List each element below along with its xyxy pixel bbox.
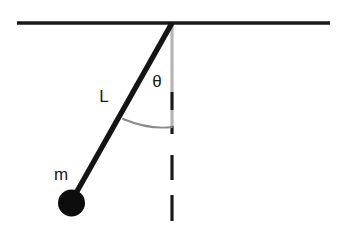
angle-label: θ (152, 72, 161, 91)
pendulum-bob (58, 190, 85, 217)
pendulum-rod (71, 23, 172, 202)
length-label: L (99, 87, 108, 106)
pendulum-diagram: L θ m (0, 0, 342, 233)
pendulum-diagram-canvas: L θ m (0, 0, 342, 233)
angle-arc (123, 119, 172, 128)
mass-label: m (54, 165, 68, 184)
